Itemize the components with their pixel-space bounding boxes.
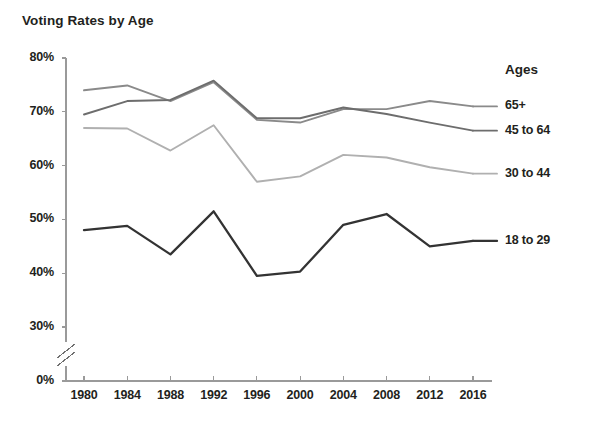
x-tick-label: 2016 [450, 388, 496, 402]
series-line-30-to-44 [84, 125, 473, 181]
legend-entry-45-to-64: 45 to 64 [505, 123, 550, 137]
legend-entry-18-to-29: 18 to 29 [505, 233, 550, 247]
y-tick-label: 50% [8, 211, 54, 225]
x-tick-label: 1984 [104, 388, 150, 402]
legend-entry-30-to-44: 30 to 44 [505, 166, 550, 180]
legend-line-markers [473, 106, 497, 241]
y-tick-label: 60% [8, 158, 54, 172]
legend-title: Ages [505, 62, 538, 77]
y-tick-label: 40% [8, 265, 54, 279]
x-tick-label: 2012 [407, 388, 453, 402]
chart-plot-area [0, 0, 589, 424]
x-tick-label: 1992 [191, 388, 237, 402]
x-tick-label: 2008 [364, 388, 410, 402]
x-tick-label: 2000 [277, 388, 323, 402]
chart-series-lines [84, 81, 473, 276]
y-tick-label: 80% [8, 50, 54, 64]
series-line-18-to-29 [84, 211, 473, 276]
legend-entry-65: 65+ [505, 98, 526, 112]
y-tick-label: 0% [8, 373, 54, 387]
series-line-65 [84, 82, 473, 122]
series-line-45-to-64 [84, 81, 473, 131]
chart-axes [57, 58, 492, 381]
y-tick-label: 30% [8, 319, 54, 333]
x-tick-label: 1996 [234, 388, 280, 402]
x-tick-label: 2004 [320, 388, 366, 402]
y-tick-label: 70% [8, 104, 54, 118]
x-tick-label: 1988 [147, 388, 193, 402]
chart-container: Voting Rates by Age 0%30%40%50%60%70%80%… [0, 0, 589, 424]
x-tick-label: 1980 [61, 388, 107, 402]
